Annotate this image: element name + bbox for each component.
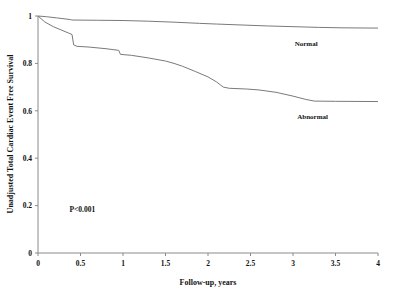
y-tick-label: 0.8	[23, 59, 33, 68]
y-tick-label: 0	[28, 249, 32, 258]
x-tick-label: 1	[121, 259, 125, 268]
x-tick-label: 0.5	[76, 259, 86, 268]
series-label-abnormal: Abnormal	[297, 113, 328, 121]
y-tick-label: 0.4	[23, 154, 33, 163]
chart-annotations: P<0.001	[69, 205, 95, 214]
y-tick-label: 0.2	[23, 201, 33, 210]
x-tick-label: 3.5	[331, 259, 341, 268]
x-axis-title: Follow-up, years	[180, 278, 237, 287]
survival-curve-chart: 00.511.522.533.54 00.20.40.60.81 NormalA…	[0, 0, 394, 297]
y-axis-title: Unadjusted Total Cardiac Event Free Surv…	[6, 54, 15, 214]
x-tick-label: 1.5	[161, 259, 171, 268]
x-tick-label: 3	[291, 259, 295, 268]
x-tick-label: 4	[376, 259, 380, 268]
y-tick-label: 1	[28, 12, 32, 21]
plot-background	[0, 0, 394, 297]
y-tick-label: 0.6	[23, 107, 33, 116]
annotation-p-value: P<0.001	[69, 205, 95, 214]
x-tick-label: 0	[36, 259, 40, 268]
x-tick-label: 2.5	[246, 259, 256, 268]
x-tick-label: 2	[206, 259, 210, 268]
series-label-normal: Normal	[295, 40, 318, 48]
chart-figure: 00.511.522.533.54 00.20.40.60.81 NormalA…	[0, 0, 394, 297]
